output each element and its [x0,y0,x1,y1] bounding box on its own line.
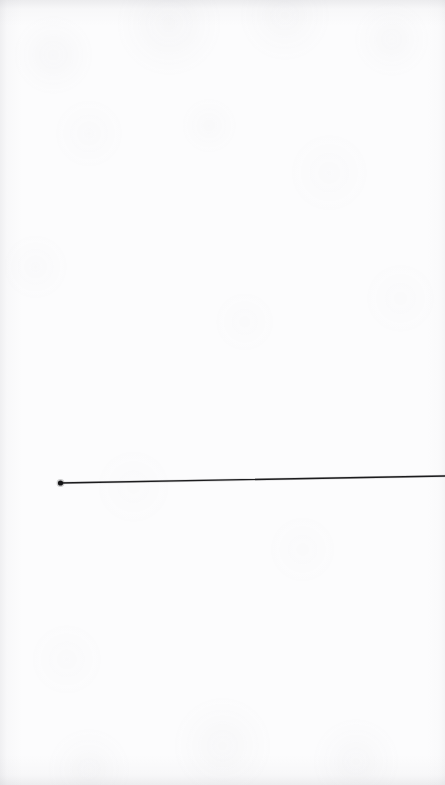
line-drawing-svg [0,0,445,785]
endpoint-dot [58,480,63,485]
drawing-canvas [0,0,445,785]
straight-line [60,476,445,483]
ink-layer [0,0,445,785]
